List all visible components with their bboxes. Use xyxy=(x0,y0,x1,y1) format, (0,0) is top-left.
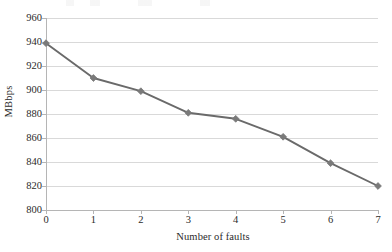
data-point-marker xyxy=(232,115,239,122)
plot-area xyxy=(0,0,392,252)
line-chart: MBbps 800820840860880900920940960 012345… xyxy=(0,0,392,252)
data-point-marker xyxy=(185,109,192,116)
data-point-marker xyxy=(137,88,144,95)
data-point-marker xyxy=(375,183,382,190)
y-axis-ticks xyxy=(42,19,46,211)
gridlines xyxy=(46,19,378,211)
